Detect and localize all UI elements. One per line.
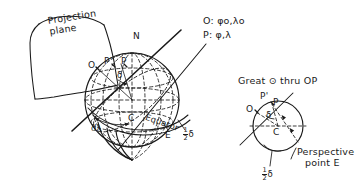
label-point-E-left: E	[165, 130, 171, 140]
right-half-delta-leader	[270, 151, 272, 166]
label-point-P-left: P	[121, 56, 127, 66]
perspective-label-line1: Perspective	[297, 146, 354, 157]
figure-canvas: Projection plane N O P' P δ C dλ Equator…	[0, 0, 362, 190]
right-diagram-heading: Great ⊙ thru OP	[238, 76, 317, 87]
perspective-label-line2: point E	[297, 158, 340, 169]
south-meridian-curves	[98, 122, 132, 160]
label-dlambda: dλ	[91, 124, 102, 134]
label-perspective-point-E: Perspective point E	[297, 147, 354, 168]
label-point-P-right: P	[273, 97, 279, 107]
label-center-C-right: C	[273, 127, 279, 137]
label-north-pole: N	[133, 31, 140, 41]
legend-row-O-text: O: φo,λo	[203, 15, 245, 26]
label-half-delta-right: 12δ	[262, 167, 273, 181]
label-point-O-right: O	[246, 104, 253, 114]
label-point-P-prime-left: P'	[104, 56, 112, 66]
half-delta-symbol-right: δ	[267, 169, 272, 179]
legend-row-P-text: P: φ,λ	[203, 29, 231, 40]
label-point-P-prime-right: P'	[260, 91, 268, 101]
right-perspective-arrowheads	[282, 115, 295, 133]
label-point-O-left: O	[88, 60, 95, 70]
right-E-leader	[291, 148, 296, 159]
label-center-C-left: C	[128, 113, 134, 123]
label-delta-left: δ	[117, 71, 122, 81]
half-delta-symbol-left: δ	[188, 129, 193, 139]
label-delta-right: δ	[266, 111, 271, 121]
label-half-delta-left: 12δ	[183, 127, 194, 141]
center-radii	[97, 64, 132, 100]
legend-row-O: O: φo,λo	[203, 16, 245, 27]
legend-row-P: P: φ,λ	[203, 30, 231, 41]
